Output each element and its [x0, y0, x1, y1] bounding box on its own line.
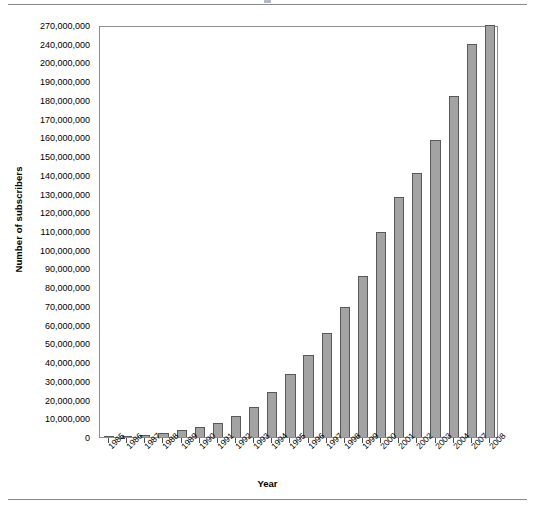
- bar: [322, 333, 332, 437]
- y-axis-tick-label: 160,000,000: [40, 134, 90, 143]
- bar: [303, 355, 313, 437]
- bar: [340, 307, 350, 437]
- y-axis-tick-label: 60,000,000: [45, 321, 90, 330]
- y-axis-tick-label: 100,000,000: [40, 246, 90, 255]
- bar: [394, 197, 404, 437]
- y-axis-tick-label: 110,000,000: [41, 228, 90, 237]
- y-axis-tick-label: 70,000,000: [45, 302, 90, 311]
- x-axis-title: Year: [0, 478, 535, 489]
- y-axis-tick-label: 180,000,000: [40, 96, 90, 105]
- bars-container: [100, 27, 497, 437]
- y-axis-tick-label: 140,000,000: [40, 171, 90, 180]
- chart-page: Number of subscribers 010,000,00020,000,…: [0, 0, 535, 506]
- bar: [285, 374, 295, 437]
- bar: [376, 232, 386, 437]
- y-axis-tick-label: 90,000,000: [45, 265, 90, 274]
- page-rule-top: [8, 4, 527, 5]
- y-axis-tick-label: 150,000,000: [40, 153, 90, 162]
- page-rule-bottom: [8, 499, 527, 500]
- y-axis-tick-label: 240,000,000: [40, 40, 90, 49]
- y-axis-tick-label: 200,000,000: [40, 59, 90, 68]
- bar: [249, 407, 259, 437]
- y-axis-tick-label: 30,000,000: [45, 377, 90, 386]
- page-header-artifact: [264, 0, 271, 3]
- bar: [430, 140, 440, 437]
- bar: [449, 96, 459, 437]
- y-axis-tick-label: 20,000,000: [45, 396, 90, 405]
- y-axis-tick-label: 170,000,000: [40, 115, 90, 124]
- bar: [358, 276, 368, 437]
- bar-chart-figure: Number of subscribers 010,000,00020,000,…: [0, 10, 535, 496]
- y-axis-ticks: 010,000,00020,000,00030,000,00040,000,00…: [26, 10, 94, 496]
- y-axis-title: Number of subscribers: [13, 140, 24, 300]
- y-axis-tick-label: 80,000,000: [45, 284, 90, 293]
- bar: [467, 44, 477, 437]
- bar: [267, 392, 277, 437]
- y-axis-tick-label: 270,000,000: [40, 22, 90, 31]
- y-axis-tick-label: 50,000,000: [45, 340, 90, 349]
- plot-area: [99, 26, 498, 438]
- bar: [412, 173, 422, 437]
- y-axis-tick-label: 40,000,000: [45, 359, 90, 368]
- y-axis-tick-label: 190,000,000: [40, 78, 90, 87]
- y-axis-tick-label: 120,000,000: [40, 209, 90, 218]
- y-axis-tick-label: 130,000,000: [40, 190, 90, 199]
- y-axis-tick-label: 0: [85, 434, 90, 443]
- y-axis-tick-label: 10,000,000: [45, 415, 90, 424]
- bar: [485, 25, 495, 437]
